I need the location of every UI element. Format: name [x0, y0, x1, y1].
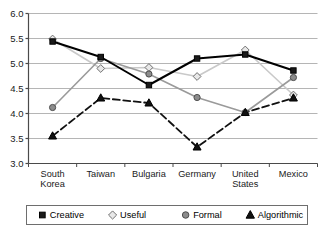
marker-square [243, 52, 248, 57]
x-category-label: Germany [178, 169, 216, 179]
legend: CreativeUsefulFormalAlgorithmic [27, 206, 308, 225]
y-tick-label: 5.5 [10, 33, 23, 44]
x-category-label: South [41, 169, 65, 179]
marker-diamond [193, 73, 201, 81]
marker-square [40, 212, 46, 218]
y-tick-label: 4.5 [10, 83, 23, 94]
series-lines [53, 39, 294, 147]
y-tick-label: 3.5 [10, 133, 23, 144]
marker-diamond [145, 64, 153, 72]
y-tick-label: 5.0 [10, 58, 23, 69]
marker-circle [182, 212, 189, 219]
x-category-label: Mexico [279, 169, 308, 179]
marker-circle [290, 74, 296, 80]
marker-circle [194, 94, 200, 100]
legend-label-useful: Useful [120, 210, 146, 220]
x-category-label: United [232, 169, 259, 179]
marker-square [146, 82, 151, 87]
marker-circle [49, 104, 55, 110]
x-category-label: States [232, 179, 258, 189]
legend-label-algorithmic: Algorithmic [258, 210, 304, 220]
y-tick-label: 6.0 [10, 8, 23, 19]
x-category-label: Korea [40, 179, 65, 189]
marker-square [291, 68, 296, 73]
marker-circle [146, 71, 152, 77]
x-axis-category-labels: SouthKoreaTaiwanBulgariaGermanyUnitedSta… [40, 169, 308, 190]
y-axis-tick-labels: 3.03.54.04.55.05.56.0 [10, 8, 28, 169]
legend-label-formal: Formal [193, 210, 222, 220]
y-tick-label: 3.0 [10, 158, 23, 169]
x-category-label: Bulgaria [132, 169, 167, 179]
line-chart: 3.03.54.04.55.05.56.0 SouthKoreaTaiwanBu… [0, 0, 327, 235]
y-tick-label: 4.0 [10, 108, 23, 119]
x-category-label: Taiwan [86, 169, 115, 179]
series-line-algorithmic [53, 98, 294, 147]
series-line-formal [53, 59, 294, 113]
chart-container: 3.03.54.04.55.05.56.0 SouthKoreaTaiwanBu… [0, 0, 327, 235]
marker-square [98, 54, 103, 59]
marker-square [194, 56, 199, 61]
legend-label-creative: Creative [50, 210, 84, 220]
marker-square [50, 39, 55, 44]
marker-diamond [97, 65, 105, 73]
